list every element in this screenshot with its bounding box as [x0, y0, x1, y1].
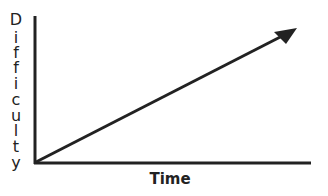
- arrowhead-icon: [274, 28, 297, 44]
- chart-canvas: [0, 0, 328, 196]
- x-axis-label: Time: [130, 170, 210, 188]
- y-axis-label-letter: D: [8, 12, 24, 28]
- trend-arrow-line: [36, 32, 290, 162]
- y-axis-label-letter: y: [8, 155, 24, 171]
